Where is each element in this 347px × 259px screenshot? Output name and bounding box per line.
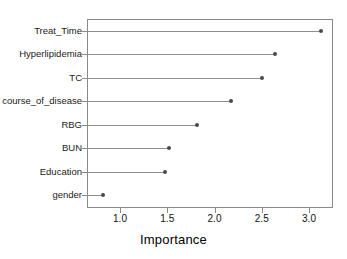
- x-axis-tick-label: 2.5: [255, 214, 269, 224]
- y-axis-category-labels: Treat_TimeHyperlipidemiaTCcourse_of_dise…: [0, 19, 82, 208]
- y-axis-tick-label: Education: [40, 167, 82, 177]
- x-axis: 1.01.52.02.53.0: [0, 208, 347, 228]
- lollipop-stem: [87, 78, 262, 79]
- data-point: [273, 52, 277, 56]
- y-axis-tick-label: gender: [52, 190, 82, 200]
- y-axis-tick-label: RBG: [61, 120, 82, 130]
- lollipop-stem: [87, 31, 321, 32]
- lollipop-stem: [87, 172, 165, 173]
- lollipop-series: [87, 19, 333, 208]
- y-axis-tick-mark: [82, 101, 87, 102]
- lollipop-stem: [87, 148, 169, 149]
- x-axis-tick-label: 1.0: [113, 214, 127, 224]
- y-axis-tick-mark: [82, 54, 87, 55]
- x-axis-tick-label: 2.0: [208, 214, 222, 224]
- y-axis-tick-mark: [82, 31, 87, 32]
- x-axis-title: Importance: [0, 232, 347, 247]
- data-point: [260, 76, 264, 80]
- data-point: [167, 146, 171, 150]
- y-axis-tick-mark: [82, 78, 87, 79]
- y-axis-tick-label: TC: [69, 73, 82, 83]
- data-point: [319, 29, 323, 33]
- x-axis-tick-label: 3.0: [302, 214, 316, 224]
- data-point: [195, 123, 199, 127]
- data-point: [229, 99, 233, 103]
- y-axis-tick-label: Hyperlipidemia: [19, 49, 82, 59]
- lollipop-stem: [87, 101, 231, 102]
- data-point: [101, 193, 105, 197]
- y-axis-tick-label: Treat_Time: [34, 26, 82, 36]
- lollipop-stem: [87, 125, 197, 126]
- y-axis-tick-label: course_of_disease: [2, 96, 82, 106]
- x-axis-tick-label: 1.5: [160, 214, 174, 224]
- data-point: [163, 170, 167, 174]
- y-axis-tick-mark: [82, 195, 87, 196]
- y-axis-tick-mark: [82, 172, 87, 173]
- lollipop-stem: [87, 54, 275, 55]
- y-axis-tick-mark: [82, 125, 87, 126]
- chart-figure: Treat_TimeHyperlipidemiaTCcourse_of_dise…: [0, 0, 347, 259]
- y-axis-tick-mark: [82, 148, 87, 149]
- y-axis-tick-label: BUN: [62, 143, 82, 153]
